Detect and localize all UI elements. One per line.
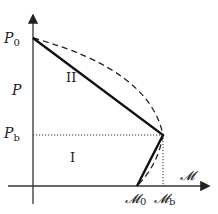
region-ii-label: II: [66, 70, 76, 85]
x-axis-label: 𝓜: [180, 168, 199, 183]
solid-linear-boundary: [33, 38, 163, 186]
y-axis-label: P: [11, 82, 22, 98]
mb-label: 𝓜b: [154, 191, 175, 207]
m0-label: 𝓜0: [125, 191, 146, 207]
region-i-label: I: [70, 150, 75, 165]
interaction-diagram: P0 Pb P II I 𝓜 𝓜0 𝓜b: [0, 0, 218, 214]
dashed-envelope-curve: [33, 38, 163, 186]
pb-label: Pb: [3, 125, 20, 143]
p0-label: P0: [3, 30, 20, 48]
